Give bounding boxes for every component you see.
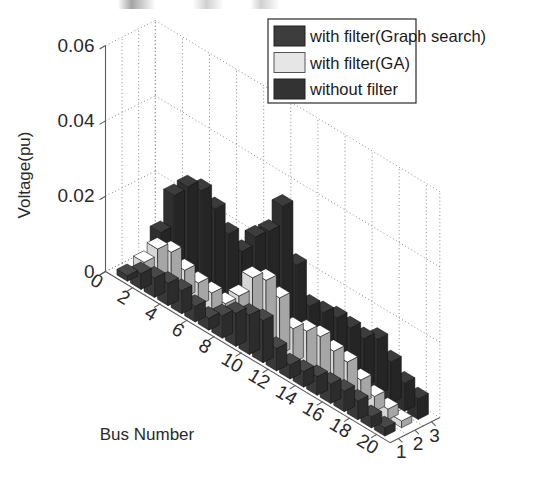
legend-swatch xyxy=(274,79,305,99)
bar-face-side xyxy=(391,356,401,403)
legend-swatch xyxy=(274,26,305,46)
y-tick-mark xyxy=(100,46,106,50)
bar-face-side xyxy=(405,378,415,411)
grid-line xyxy=(106,96,156,121)
y-tick-mark xyxy=(100,196,106,200)
y-tick-mark xyxy=(100,121,106,125)
z-tick-label: 2 xyxy=(413,433,424,454)
chart-legend: with filter(Graph search)with filter(GA)… xyxy=(268,19,486,103)
legend-label: with filter(Graph search) xyxy=(309,27,486,45)
x-tick-label: 4 xyxy=(141,302,161,326)
z-tick-label: 1 xyxy=(396,441,407,462)
legend-label: without filter xyxy=(309,80,399,98)
bar-face-side xyxy=(236,308,246,346)
y-tick-label: 0.02 xyxy=(58,185,95,206)
y-tick-label: 0.06 xyxy=(58,35,95,56)
bar-face-side xyxy=(249,310,259,355)
chart-figure: 00.020.040.0602468101214161820123Voltage… xyxy=(0,0,543,481)
legend-swatch xyxy=(274,53,305,73)
legend-label: with filter(GA) xyxy=(309,54,410,72)
x-axis-title: Bus Number xyxy=(100,425,195,444)
bar-face-side xyxy=(263,315,273,362)
x-tick-label: 8 xyxy=(195,334,215,357)
z-tick-label: 3 xyxy=(429,425,440,446)
y-axis-title: Voltage(pu) xyxy=(15,132,34,219)
bar-face-side xyxy=(201,185,211,289)
y-tick-label: 0.04 xyxy=(58,110,95,131)
x-tick-label: 6 xyxy=(168,318,188,341)
grid-line xyxy=(106,20,156,45)
bar-face-side xyxy=(215,203,225,297)
grid-line xyxy=(106,171,156,196)
bar-face-side xyxy=(377,334,387,395)
x-tick-label: 2 xyxy=(114,286,134,309)
bar3-chart-svg: 00.020.040.0602468101214161820123Voltage… xyxy=(0,0,543,481)
